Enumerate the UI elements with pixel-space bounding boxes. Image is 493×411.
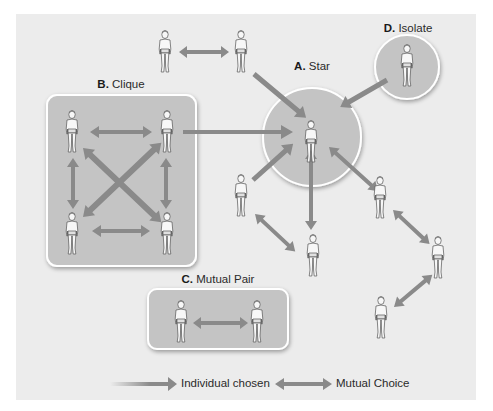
person-icon-right-far (432, 237, 444, 279)
label-star: A. Star (294, 60, 330, 72)
legend-individual-arrow-icon (110, 377, 177, 391)
person-icon-top-left (159, 31, 171, 73)
legend-mutual-arrow-icon (275, 378, 332, 390)
label-mutual-pair: C. Mutual Pair (182, 273, 255, 285)
label-mutual-pair-letter: C. (182, 273, 194, 285)
mutual-arrow-right-chain-2 (390, 270, 436, 311)
mutual-arrow-top-pair (179, 46, 229, 58)
person-icon-bottom-center (307, 235, 319, 277)
mutual-arrow-right-chain-1 (389, 206, 434, 249)
person-icon-top-right (235, 31, 247, 73)
person-icon-right-upper (374, 177, 386, 219)
label-star-name: Star (309, 60, 330, 72)
mutual-pair-box (148, 289, 288, 349)
mutual-arrow-midleft-bottom (251, 210, 299, 256)
label-isolate-letter: D. (384, 22, 396, 34)
label-isolate-name: Isolate (398, 22, 432, 34)
label-clique-name: Clique (112, 78, 145, 90)
label-isolate: D. Isolate (384, 22, 433, 34)
label-mutual-pair-name: Mutual Pair (196, 273, 254, 285)
legend-individual-chosen: Individual chosen (181, 377, 270, 389)
label-clique-letter: B. (97, 78, 109, 90)
label-star-letter: A. (294, 60, 306, 72)
sociogram-diagram (0, 0, 493, 411)
person-icon-mid-left (235, 175, 247, 217)
label-clique: B. Clique (97, 78, 144, 90)
legend-mutual-choice: Mutual Choice (336, 377, 410, 389)
arrow-isolate-to-star (337, 74, 391, 113)
person-icon-right-lower (375, 297, 387, 339)
